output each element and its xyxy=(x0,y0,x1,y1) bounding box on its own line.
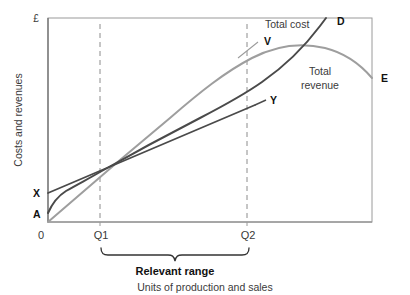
x-tick-label-q1: Q1 xyxy=(94,229,109,241)
chart-canvas: £ Costs and revenues X A V Y D E Total c… xyxy=(0,0,410,295)
point-label-e: E xyxy=(381,72,388,84)
x-tick-label-q2: Q2 xyxy=(241,229,256,241)
point-label-d: D xyxy=(337,15,345,27)
y-axis-title: Costs and revenues xyxy=(12,73,24,166)
series-label-total-revenue-line1: Total xyxy=(309,65,331,77)
series-label-total-revenue-line2: revenue xyxy=(301,79,339,91)
point-label-y: Y xyxy=(270,94,277,106)
relevant-range-label: Relevant range xyxy=(136,265,215,277)
x-axis-title: Units of production and sales xyxy=(137,281,272,293)
relevant-range-brace xyxy=(101,248,249,261)
point-label-a: A xyxy=(33,208,41,220)
point-label-x: X xyxy=(33,187,40,199)
x-tick-label-0: 0 xyxy=(38,229,44,241)
currency-symbol: £ xyxy=(33,13,39,24)
chart-figure: £ Costs and revenues X A V Y D E Total c… xyxy=(0,0,410,295)
point-label-v: V xyxy=(264,35,271,47)
series-label-total-cost: Total cost xyxy=(265,18,309,30)
